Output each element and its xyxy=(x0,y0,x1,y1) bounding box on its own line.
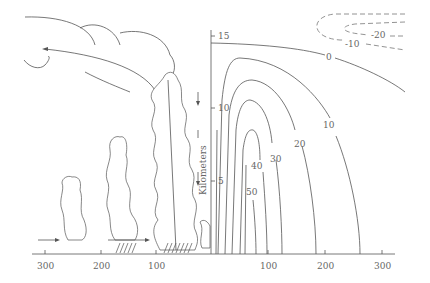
contour-30-bottom xyxy=(276,160,282,254)
cloud-tower-small xyxy=(61,176,86,240)
contour-label-40: 40 xyxy=(251,161,263,171)
y-axis-label: Kilometers xyxy=(198,145,208,195)
y-tick-10: 10 xyxy=(218,103,230,113)
x-tick-left-300: 300 xyxy=(37,261,54,271)
contour-label-50: 50 xyxy=(246,187,258,197)
cloud-tower-mid xyxy=(106,137,137,240)
x-tick-right-300: 300 xyxy=(374,261,391,271)
arrow-down-icon xyxy=(196,101,200,106)
contour-label-10: 10 xyxy=(323,120,335,130)
arrow-right-icon xyxy=(145,238,150,242)
x-tick-right-200: 200 xyxy=(317,261,334,271)
x-tick-left-100: 100 xyxy=(148,261,165,271)
y-tick-5: 5 xyxy=(218,176,224,186)
contour-label-neg20: -20 xyxy=(371,30,386,40)
contour-30-top xyxy=(232,100,272,254)
contour-0-right xyxy=(335,58,405,92)
x-ticks: 100 200 300 300 200 100 xyxy=(37,250,391,271)
contour-label-30: 30 xyxy=(270,154,282,164)
contour-40-bottom xyxy=(263,172,267,254)
dashed-contours xyxy=(317,14,405,50)
contour-label-0: 0 xyxy=(326,52,332,62)
x-tick-left-200: 200 xyxy=(93,261,110,271)
storm-diagram: 15 10 5 Kilometers 100 200 300 300 200 1… xyxy=(0,0,430,283)
y-tick-15: 15 xyxy=(218,31,230,41)
contour-10-bottom xyxy=(336,136,360,254)
contour-0-left xyxy=(211,43,325,55)
arrow-right-icon xyxy=(55,238,60,242)
contour-20-bottom xyxy=(302,146,316,254)
contour-50-left xyxy=(245,165,246,254)
contour-label-neg10: -10 xyxy=(345,39,360,49)
cloud-right-edge xyxy=(200,220,210,248)
solid-contours xyxy=(211,43,405,254)
contour-50-right xyxy=(253,200,256,254)
contour-label-20: 20 xyxy=(294,139,306,149)
x-tick-right-100: 100 xyxy=(260,261,277,271)
cloud-tower-main xyxy=(151,72,197,250)
